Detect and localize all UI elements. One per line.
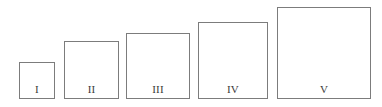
square-i: I <box>19 62 55 99</box>
square-label-iv: IV <box>199 83 267 95</box>
square-ii: II <box>64 41 119 99</box>
square-size-comparison-figure: I II III IV V <box>0 0 382 107</box>
square-label-v: V <box>278 83 370 95</box>
square-label-ii: II <box>65 83 118 95</box>
square-label-iii: III <box>127 83 189 95</box>
square-v: V <box>277 7 371 99</box>
square-label-i: I <box>20 83 54 95</box>
square-iii: III <box>126 33 190 99</box>
square-iv: IV <box>198 22 268 99</box>
